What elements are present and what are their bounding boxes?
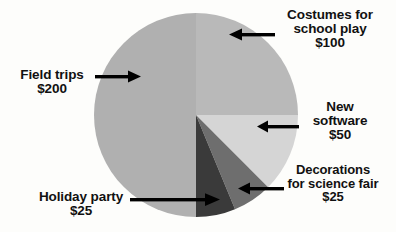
label-new-software-amount: $50: [288, 128, 392, 142]
label-new-software-line2: software: [313, 113, 368, 128]
label-holiday-party-line1: Holiday party: [39, 189, 123, 204]
label-new-software: New software $50: [288, 100, 392, 142]
label-field-trips-amount: $200: [4, 82, 100, 96]
label-costumes-line1: Costumes for: [287, 7, 373, 22]
label-decorations-amount: $25: [272, 190, 394, 204]
chart-canvas: Costumes for school play $100 Field trip…: [0, 0, 396, 232]
label-field-trips: Field trips $200: [4, 68, 100, 96]
label-costumes-for-school-play: Costumes for school play $100: [268, 8, 392, 50]
label-decorations-for-science-fair: Decorations for science fair $25: [272, 163, 394, 204]
chart-title: [0, 0, 396, 1]
label-holiday-party-amount: $25: [14, 204, 148, 218]
label-new-software-line1: New: [326, 99, 353, 114]
label-field-trips-line1: Field trips: [20, 67, 83, 82]
label-costumes-amount: $100: [268, 36, 392, 50]
arrow-field-trips: [95, 70, 141, 84]
label-holiday-party: Holiday party $25: [14, 190, 148, 218]
pie-slice-field-trips[interactable]: [94, 13, 196, 217]
label-costumes-line2: school play: [293, 21, 366, 36]
